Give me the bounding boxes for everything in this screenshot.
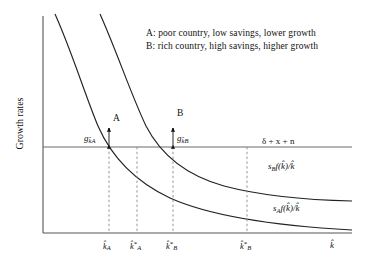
label-curve-sB: sBf(k̂)/k̂ [268,161,294,172]
solow-convergence-figure: Growth rates A: poor country, low saving… [0,0,368,273]
point-label-a: A [113,113,120,123]
point-marker-a [108,128,110,130]
legend-line-a: A: poor country, low savings, lower grow… [146,27,318,40]
legend-line-b: B: rich country, high savings, higher gr… [146,40,318,53]
label-curve-sA: sAf(k̂)/k̂ [273,203,299,214]
y-axis-label: Growth rates [14,76,25,172]
x-tick-k-hat-A: k̂A [103,240,111,251]
label-break-even-line: δ + x + n [262,136,294,146]
point-label-b: B [177,108,183,118]
growth-label-b: gk̂B [177,133,188,144]
point-marker-b [172,128,174,130]
x-tick-k-hat-B-star: k̂*B [240,240,251,251]
x-tick-k-hat-B: k̂*B [166,240,177,251]
growth-label-a: gk̂A [84,133,95,144]
x-axis-label: k̂ [330,240,334,250]
legend: A: poor country, low savings, lower grow… [146,27,318,52]
x-tick-k-hat-A-star: k̂*A [130,240,141,251]
